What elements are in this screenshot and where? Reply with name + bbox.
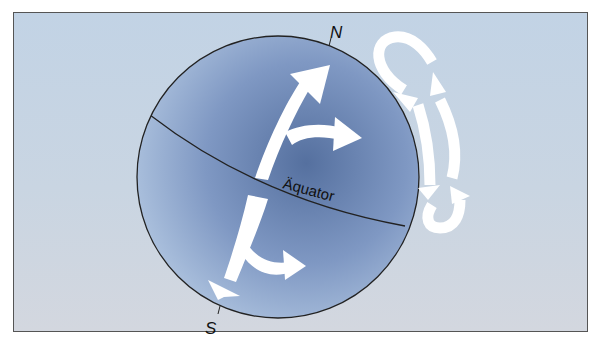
- diagram-canvas: N S Äquator: [0, 0, 597, 347]
- south-label: S: [205, 319, 217, 338]
- south-pole-tick: [218, 306, 220, 314]
- globe: [137, 36, 419, 318]
- north-label: N: [330, 23, 343, 42]
- lower-circulation-loop: [428, 200, 460, 228]
